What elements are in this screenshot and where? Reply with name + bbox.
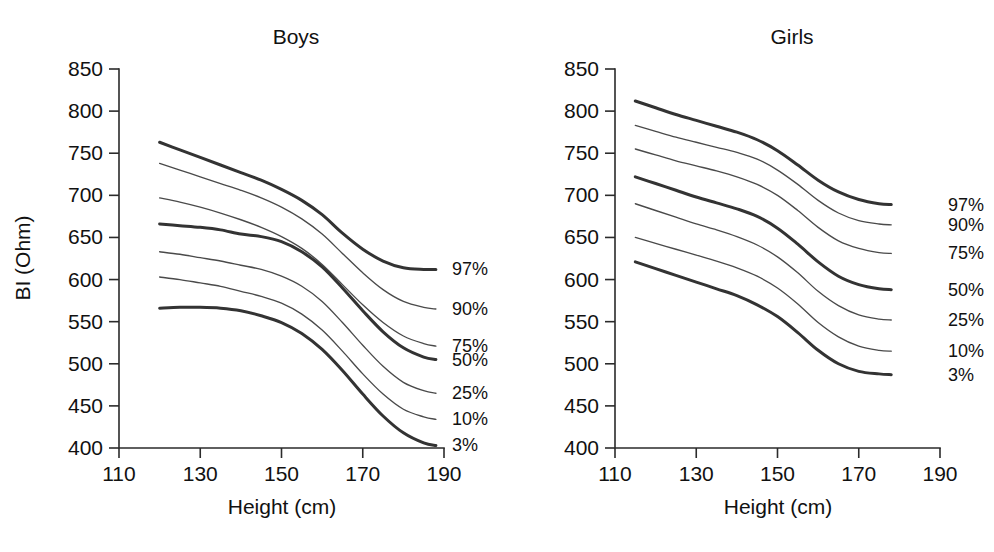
x-tick-label: 170	[841, 462, 876, 485]
x-tick-label: 190	[922, 462, 957, 485]
percentile-label-50pct: 50%	[948, 280, 984, 300]
percentile-curve-75pct	[635, 149, 891, 253]
y-axis-title: BI (Ohm)	[11, 215, 34, 300]
x-tick-label: 150	[760, 462, 795, 485]
percentile-curve-90pct	[635, 125, 891, 224]
y-tick-label: 600	[68, 268, 103, 291]
x-axis-title: Height (cm)	[724, 495, 833, 518]
percentile-curve-25pct	[160, 252, 436, 394]
percentile-curve-25pct	[635, 204, 891, 320]
x-tick-label: 130	[183, 462, 218, 485]
panel-title: Boys	[273, 25, 320, 48]
axis-spine	[615, 69, 940, 448]
y-tick-label: 800	[68, 99, 103, 122]
percentile-label-50pct: 50%	[452, 350, 488, 370]
y-tick-label: 850	[564, 57, 599, 80]
y-tick-label: 650	[68, 225, 103, 248]
y-tick-label: 650	[564, 225, 599, 248]
y-tick-label: 700	[68, 183, 103, 206]
panel-boys: Boys400450500550600650700750800850110130…	[11, 25, 488, 518]
y-tick-label: 550	[564, 310, 599, 333]
x-tick-label: 110	[102, 462, 135, 485]
x-tick-label: 130	[679, 462, 714, 485]
y-tick-label: 750	[564, 141, 599, 164]
percentile-label-97pct: 97%	[948, 195, 984, 215]
y-tick-label: 700	[564, 183, 599, 206]
y-tick-label: 400	[68, 436, 103, 459]
y-tick-label: 800	[564, 99, 599, 122]
percentile-curve-50pct	[635, 177, 891, 290]
percentile-label-25pct: 25%	[452, 383, 488, 403]
percentile-label-90pct: 90%	[948, 215, 984, 235]
axis-spine	[119, 69, 444, 448]
percentile-label-97pct: 97%	[452, 259, 488, 279]
percentile-curve-75pct	[160, 198, 436, 346]
x-tick-label: 150	[264, 462, 299, 485]
percentile-curve-50pct	[160, 224, 436, 360]
y-tick-label: 500	[68, 352, 103, 375]
percentile-label-3pct: 3%	[452, 435, 478, 455]
percentile-curve-10pct	[160, 277, 436, 419]
y-tick-label: 750	[68, 141, 103, 164]
percentile-label-25pct: 25%	[948, 310, 984, 330]
panel-title: Girls	[770, 25, 813, 48]
y-tick-label: 450	[68, 394, 103, 417]
percentile-label-10pct: 10%	[452, 409, 488, 429]
y-tick-label: 600	[564, 268, 599, 291]
panel-girls: Girls40045050055060065070075080085011013…	[564, 25, 984, 518]
percentile-label-90pct: 90%	[452, 299, 488, 319]
percentile-curve-10pct	[635, 237, 891, 351]
x-tick-label: 110	[598, 462, 631, 485]
y-tick-label: 400	[564, 436, 599, 459]
percentile-label-3pct: 3%	[948, 365, 974, 385]
percentile-label-10pct: 10%	[948, 341, 984, 361]
chart-canvas: Boys400450500550600650700750800850110130…	[0, 0, 994, 552]
x-tick-label: 190	[426, 462, 461, 485]
x-tick-label: 170	[345, 462, 380, 485]
percentile-label-75pct: 75%	[948, 243, 984, 263]
x-axis-title: Height (cm)	[228, 495, 337, 518]
y-tick-label: 450	[564, 394, 599, 417]
y-tick-label: 850	[68, 57, 103, 80]
y-tick-label: 500	[564, 352, 599, 375]
y-tick-label: 550	[68, 310, 103, 333]
percentile-curve-90pct	[160, 163, 436, 309]
bioimpedance-percentile-figure: Boys400450500550600650700750800850110130…	[0, 0, 994, 552]
